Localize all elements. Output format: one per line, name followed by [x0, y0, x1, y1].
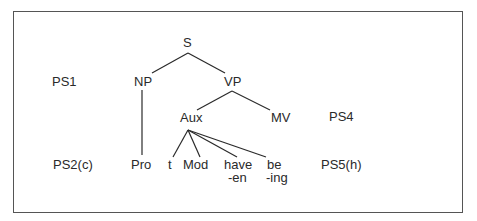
- edge-vp-mv: [232, 91, 270, 110]
- rule-label-ps2c: PS2(c): [53, 158, 93, 172]
- rule-label-ps1: PS1: [52, 75, 77, 89]
- node-be-ing: -ing: [266, 171, 288, 185]
- edge-aux-t: [173, 130, 188, 157]
- edge-s-vp: [188, 53, 225, 73]
- rule-label-ps5h: PS5(h): [321, 158, 361, 172]
- edge-aux-have: [188, 130, 237, 157]
- node-t: t: [168, 158, 172, 172]
- edge-vp-aux: [197, 91, 232, 110]
- node-mod: Mod: [183, 158, 208, 172]
- node-s: S: [183, 36, 192, 50]
- node-np: NP: [134, 75, 152, 89]
- tree-edges: [0, 0, 477, 221]
- node-aux: Aux: [180, 111, 202, 125]
- node-pro: Pro: [131, 158, 151, 172]
- edge-s-np: [152, 53, 188, 73]
- node-vp: VP: [224, 75, 241, 89]
- node-have-en: -en: [228, 171, 247, 185]
- edge-aux-be: [188, 130, 266, 157]
- rule-label-ps4: PS4: [329, 110, 354, 124]
- node-mv: MV: [271, 111, 291, 125]
